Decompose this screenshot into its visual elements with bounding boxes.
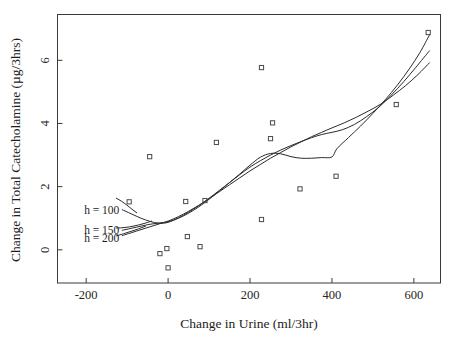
data-point-marker — [270, 121, 274, 125]
y-axis-title: Change in Total Catecholamine (µg/3hrs) — [8, 38, 23, 262]
data-point-marker — [214, 140, 218, 144]
y-tick-label: 0 — [39, 247, 53, 253]
x-axis-ticks — [86, 278, 414, 283]
x-tick-label: 0 — [165, 288, 171, 302]
curve-label: h = 200 — [84, 232, 119, 244]
data-point-marker — [184, 199, 188, 203]
x-tick-label: 600 — [404, 288, 423, 302]
smoothing-curve-h200 — [122, 63, 429, 236]
data-point-marker — [259, 217, 263, 221]
scatter-plot-figure: -2000200400600 0246 h = 100h = 150h = 20… — [0, 0, 461, 339]
data-point-marker — [166, 266, 170, 270]
smoothing-curve-h150 — [122, 51, 429, 230]
smoothing-curve-h100 — [122, 35, 429, 223]
curve-label: h = 100 — [84, 204, 119, 216]
y-axis-ticks — [58, 60, 63, 250]
x-tick-label: 400 — [323, 288, 342, 302]
label-leader-lines — [116, 198, 152, 236]
data-point-marker — [198, 245, 202, 249]
smoothing-curves — [122, 35, 429, 236]
data-point-marker — [185, 234, 189, 238]
y-tick-label: 6 — [39, 57, 53, 63]
data-points — [127, 30, 430, 270]
data-point-marker — [426, 30, 430, 34]
data-point-marker — [148, 155, 152, 159]
x-axis-title: Change in Urine (ml/3hr) — [180, 316, 318, 331]
y-axis-tick-labels: 0246 — [39, 57, 53, 253]
data-point-marker — [259, 65, 263, 69]
data-point-marker — [165, 246, 169, 250]
data-point-marker — [127, 200, 131, 204]
data-point-marker — [334, 174, 338, 178]
data-point-marker — [158, 252, 162, 256]
x-axis-tick-labels: -2000200400600 — [75, 288, 424, 302]
data-point-marker — [394, 102, 398, 106]
data-point-marker — [268, 137, 272, 141]
y-tick-label: 4 — [39, 120, 53, 127]
x-tick-label: 200 — [241, 288, 260, 302]
curve-annotations: h = 100h = 150h = 200 — [84, 204, 119, 243]
x-tick-label: -200 — [75, 288, 98, 302]
y-tick-label: 2 — [39, 184, 53, 190]
plot-canvas: -2000200400600 0246 h = 100h = 150h = 20… — [0, 0, 461, 339]
data-point-marker — [298, 187, 302, 191]
